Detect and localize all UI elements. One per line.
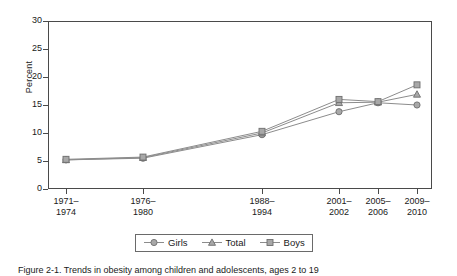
plot-area — [48, 21, 432, 189]
x-tick-label-line: 1974 — [35, 207, 97, 218]
y-tick-label: 15 — [18, 100, 42, 109]
x-tick-mark — [417, 189, 418, 194]
y-tick-mark — [43, 189, 48, 190]
y-tick-label: 0 — [18, 184, 42, 193]
legend-label: Total — [226, 237, 246, 248]
x-tick-label-line: 1994 — [231, 207, 293, 218]
x-tick-label-line: 1988– — [231, 196, 293, 207]
x-tick-label: 2009–2010 — [386, 196, 448, 218]
x-tick-label-line: 1971– — [35, 196, 97, 207]
square-marker-icon — [259, 237, 281, 248]
y-tick-label: 20 — [18, 72, 42, 81]
y-tick-label: 10 — [18, 128, 42, 137]
y-tick-mark — [43, 133, 48, 134]
chart-legend: GirlsTotalBoys — [135, 234, 313, 252]
x-tick-label-line: 2010 — [386, 207, 448, 218]
legend-entry-total[interactable]: Total — [201, 237, 246, 248]
figure-container: Percent 051015202530 1971–19741976–19801… — [0, 0, 457, 276]
x-tick-label: 1976–1980 — [112, 196, 174, 218]
y-tick-mark — [43, 105, 48, 106]
x-tick-label-line: 1980 — [112, 207, 174, 218]
y-tick-mark — [43, 161, 48, 162]
triangle-marker-icon — [201, 237, 223, 248]
legend-entry-girls[interactable]: Girls — [143, 237, 188, 248]
legend-label: Girls — [168, 237, 188, 248]
y-tick-mark — [43, 77, 48, 78]
y-tick-label: 30 — [18, 16, 42, 25]
x-tick-mark — [66, 189, 67, 194]
y-tick-mark — [43, 21, 48, 22]
y-tick-label: 5 — [18, 156, 42, 165]
x-tick-label: 1988–1994 — [231, 196, 293, 218]
x-tick-mark — [378, 189, 379, 194]
y-tick-label: 25 — [18, 44, 42, 53]
legend-entry-boys[interactable]: Boys — [259, 237, 305, 248]
x-tick-label: 1971–1974 — [35, 196, 97, 218]
figure-caption: Figure 2-1. Trends in obesity among chil… — [18, 265, 448, 276]
circle-marker-icon — [143, 237, 165, 248]
x-tick-label-line: 2009– — [386, 196, 448, 207]
x-tick-mark — [262, 189, 263, 194]
y-tick-mark — [43, 49, 48, 50]
legend-label: Boys — [284, 237, 305, 248]
x-tick-mark — [339, 189, 340, 194]
x-tick-label-line: 1976– — [112, 196, 174, 207]
x-tick-mark — [143, 189, 144, 194]
